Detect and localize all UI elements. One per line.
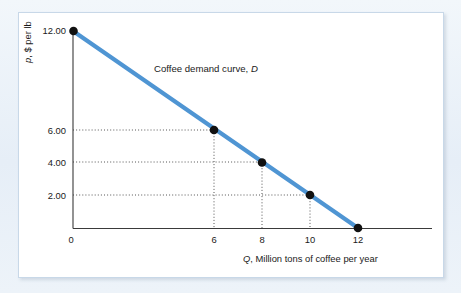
data-point-6-6 <box>210 126 219 135</box>
y-axis-title-rest: , $ per lb <box>22 21 33 57</box>
data-point-0-12 <box>69 27 78 36</box>
y-tick-label-12: 12.00 <box>43 25 66 36</box>
x-tick-label-12: 12 <box>353 234 363 245</box>
data-point-10-2 <box>306 191 315 200</box>
figure-root: 12.00 6.00 4.00 2.00 0 6 8 10 12 p, $ pe… <box>0 0 461 293</box>
y-axis-title: p, $ per lb <box>22 21 33 64</box>
y-tick-label-6: 6.00 <box>48 125 66 136</box>
demand-curve-annotation: Coffee demand curve, D <box>154 63 258 74</box>
x-axis-title-symbol: Q <box>243 253 250 264</box>
y-tick-label-4: 4.00 <box>48 157 66 168</box>
demand-curve-annotation-text: Coffee demand curve, <box>154 63 251 74</box>
data-point-12-0 <box>354 224 363 233</box>
x-axis-title-rest: , Million tons of coffee per year <box>250 253 378 264</box>
x-tick-label-10: 10 <box>305 234 315 245</box>
x-axis-title: Q, Million tons of coffee per year <box>243 253 378 264</box>
demand-curve-chart: 12.00 6.00 4.00 2.00 0 6 8 10 12 p, $ pe… <box>0 0 461 293</box>
y-tick-label-2: 2.00 <box>48 190 66 201</box>
x-tick-label-0: 0 <box>68 234 73 245</box>
x-tick-label-6: 6 <box>211 234 216 245</box>
data-point-8-4 <box>258 158 267 167</box>
x-tick-label-8: 8 <box>259 234 264 245</box>
demand-curve-annotation-symbol: D <box>251 63 258 74</box>
